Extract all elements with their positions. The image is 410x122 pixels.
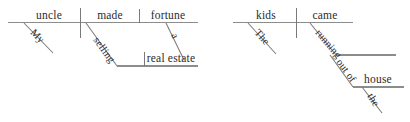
word-gerund-object-real-estate: real estate [147,52,196,64]
word-modifier-the-subject: The [253,27,273,47]
word-subject-kids: kids [256,9,276,21]
word-gerund-selling: selling [91,35,118,66]
sentence-diagram-figure: uncle made fortune My a selling real est… [0,0,410,122]
word-verb-came: came [312,9,337,21]
diagram-left: uncle made fortune My a selling real est… [8,8,198,66]
word-preposition-out-of: out of [334,57,358,85]
word-participle-running: running [313,27,344,61]
diagram-right: kids came The running out of house the [233,8,404,113]
word-modifier-my: My [29,27,48,46]
word-object-fortune: fortune [151,9,186,21]
diagram-canvas: uncle made fortune My a selling real est… [0,0,410,122]
word-verb-made: made [97,9,123,21]
word-subject-uncle: uncle [36,9,62,21]
word-prep-object-house: house [364,73,392,85]
